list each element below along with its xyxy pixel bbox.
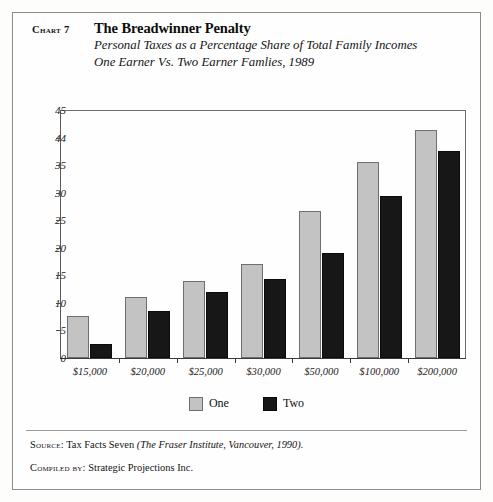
bar-two	[90, 344, 112, 358]
bar-one	[357, 162, 379, 358]
x-axis-tick-label: $50,000	[304, 366, 338, 377]
bar-two	[438, 151, 460, 358]
chart-legend: One Two	[0, 396, 493, 411]
bar-group	[408, 110, 466, 358]
bar-group	[350, 110, 408, 358]
bar-group	[119, 110, 177, 358]
chart-subtitle-line-2: One Earner Vs. Two Earner Famlies, 1989	[94, 54, 462, 71]
x-axis-tick-mark	[408, 358, 409, 363]
legend-label-one: One	[209, 396, 229, 411]
footer-divider	[26, 430, 467, 431]
compiled-line: Compiled by: Strategic Projections Inc.	[30, 461, 466, 475]
chart-subtitle-line-1: Personal Taxes as a Percentage Share of …	[94, 37, 462, 54]
x-axis-tick-label: $20,000	[131, 366, 165, 377]
bar-one	[299, 211, 321, 358]
legend-item-one: One	[189, 396, 229, 411]
chart-number-label: Chart 7	[32, 24, 94, 35]
bar-two	[148, 311, 170, 358]
bar-group	[177, 110, 235, 358]
x-axis-tick-label: $15,000	[73, 366, 107, 377]
compiled-text: Strategic Projections Inc.	[88, 462, 193, 473]
bar-two	[380, 196, 402, 358]
bar-one	[241, 264, 263, 358]
bar-one	[125, 297, 147, 358]
bar-one	[183, 281, 205, 358]
source-label: Source:	[30, 439, 64, 450]
bars-container	[61, 110, 466, 358]
bar-group	[235, 110, 293, 358]
bar-one	[415, 130, 437, 358]
x-axis-tick-mark	[119, 358, 120, 363]
x-axis-tick-mark	[292, 358, 293, 363]
source-line: Source: Tax Facts Seven (The Fraser Inst…	[30, 438, 466, 452]
bar-one	[67, 316, 89, 358]
x-axis-tick-mark	[177, 358, 178, 363]
chart-footer: Source: Tax Facts Seven (The Fraser Inst…	[30, 438, 466, 483]
bar-two	[264, 279, 286, 358]
plot-area: 051015202530354445 $15,000$20,000$25,000…	[30, 104, 470, 366]
x-axis-tick-label: $100,000	[359, 366, 399, 377]
chart-page: Chart 7 The Breadwinner Penalty Personal…	[0, 0, 493, 502]
compiled-label: Compiled by:	[30, 462, 86, 473]
x-axis-tick-mark	[350, 358, 351, 363]
bar-two	[322, 253, 344, 358]
x-axis-line	[60, 358, 466, 359]
x-axis-tick-label: $25,000	[188, 366, 222, 377]
page-title: The Breadwinner Penalty	[94, 20, 251, 37]
x-axis-tick-label: $30,000	[246, 366, 280, 377]
legend-item-two: Two	[263, 396, 304, 411]
chart-title-row: Chart 7 The Breadwinner Penalty	[32, 20, 462, 37]
x-axis-tick-label: $200,000	[417, 366, 457, 377]
source-citation: (The Fraser Institute, Vancouver, 1990).	[137, 439, 304, 450]
x-axis-tick-mark	[235, 358, 236, 363]
source-text: Tax Facts Seven	[66, 439, 137, 450]
legend-label-two: Two	[283, 396, 304, 411]
legend-swatch-one	[189, 397, 203, 411]
bar-group	[61, 110, 119, 358]
legend-swatch-two	[263, 397, 277, 411]
bar-two	[206, 292, 228, 358]
chart-header: Chart 7 The Breadwinner Penalty Personal…	[32, 20, 462, 71]
bar-group	[292, 110, 350, 358]
